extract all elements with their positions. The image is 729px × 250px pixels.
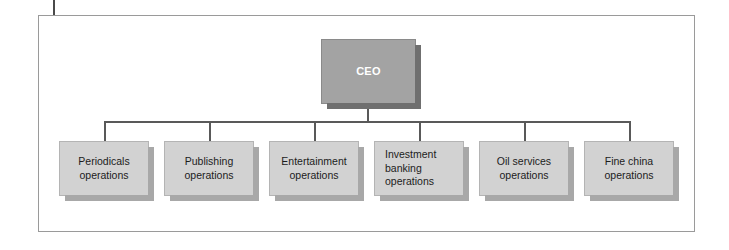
node-bottom-face (590, 195, 679, 201)
node-ceo-bottom-face (327, 103, 421, 109)
connector-child-drop-6 (629, 121, 631, 141)
node-label: Periodicals operations (73, 155, 134, 182)
node-label-line2: operations (184, 169, 233, 181)
node-label-line2: operations (604, 169, 653, 181)
connector-child-drop-5 (524, 121, 526, 141)
node-bottom-face (65, 195, 154, 201)
node-label-line2: banking (385, 162, 422, 174)
connector-child-drop-3 (314, 121, 316, 141)
node-label: Fine china operations (599, 155, 658, 182)
node-bottom-face (170, 195, 259, 201)
node-side-face (358, 147, 364, 196)
node-label: Publishing operations (179, 155, 238, 182)
node-ceo-label: CEO (356, 64, 381, 78)
node-label: Investment banking operations (375, 148, 441, 188)
node-bottom-face (380, 195, 469, 201)
node-side-face (253, 147, 259, 196)
node-side-face (148, 147, 154, 196)
node-fine-china-operations[interactable]: Fine china operations (584, 141, 674, 196)
node-label-line2: operations (289, 169, 338, 181)
node-bottom-face (275, 195, 364, 201)
node-label-line1: Publishing (185, 155, 233, 167)
page-tick-mark (53, 0, 55, 16)
connector-horizontal-bus (104, 121, 631, 123)
connector-child-drop-2 (209, 121, 211, 141)
node-label: Entertainment operations (276, 155, 351, 182)
chart-frame: CEO Periodicals operations Publishing op… (38, 15, 695, 232)
node-bottom-face (485, 195, 574, 201)
connector-child-drop-4 (419, 121, 421, 141)
node-publishing-operations[interactable]: Publishing operations (164, 141, 254, 196)
node-side-face (568, 147, 574, 196)
node-investment-banking-operations[interactable]: Investment banking operations (374, 141, 464, 196)
node-label-line2: operations (499, 169, 548, 181)
node-oil-services-operations[interactable]: Oil services operations (479, 141, 569, 196)
node-label-line1: Investment (385, 148, 436, 160)
node-label-line1: Entertainment (281, 155, 346, 167)
node-label: Oil services operations (492, 155, 556, 182)
node-periodicals-operations[interactable]: Periodicals operations (59, 141, 149, 196)
node-side-face (463, 147, 469, 196)
node-label-line2: operations (79, 169, 128, 181)
diagram-canvas: CEO Periodicals operations Publishing op… (0, 0, 729, 250)
node-label-line3: operations (385, 175, 434, 187)
node-side-face (673, 147, 679, 196)
connector-child-drop-1 (104, 121, 106, 141)
node-label-line1: Oil services (497, 155, 551, 167)
node-ceo[interactable]: CEO (321, 39, 416, 104)
node-ceo-side-face (415, 45, 421, 104)
node-entertainment-operations[interactable]: Entertainment operations (269, 141, 359, 196)
node-label-line1: Periodicals (78, 155, 129, 167)
node-label-line1: Fine china (605, 155, 653, 167)
